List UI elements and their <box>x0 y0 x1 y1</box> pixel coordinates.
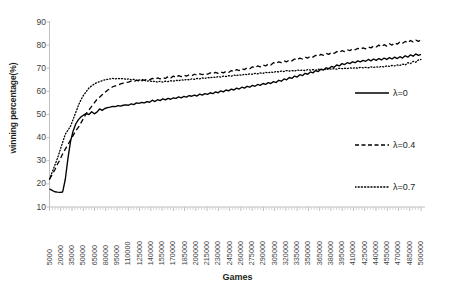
x-axis-title-text: Games <box>222 272 252 282</box>
x-axis-tick-label: 245000 <box>225 241 232 265</box>
x-axis-tick-label: 365000 <box>315 241 322 265</box>
x-axis-title: Games <box>0 272 475 282</box>
x-axis-tick-label: 485000 <box>405 241 412 265</box>
x-axis-tick-label: 275000 <box>248 241 255 265</box>
legend-label: λ=0.7 <box>393 182 415 192</box>
x-axis-tick-label: 5000 <box>45 249 52 265</box>
x-axis-tick-label: 305000 <box>270 241 277 265</box>
x-axis-tick-label: 410000 <box>349 241 356 265</box>
x-axis-tick-label: 320000 <box>282 241 289 265</box>
x-axis-tick-label: 20000 <box>56 245 63 265</box>
legend-swatch-dashed <box>355 141 389 149</box>
legend-label: λ=0.4 <box>393 140 415 150</box>
x-axis-tick-label: 155000 <box>158 241 165 265</box>
x-axis-tick-label: 230000 <box>214 241 221 265</box>
x-axis-tick-label: 125000 <box>135 241 142 265</box>
x-axis-tick-label: 425000 <box>360 241 367 265</box>
legend-swatch-dotted <box>355 183 389 191</box>
x-axis-tick-label: 65000 <box>90 245 97 265</box>
x-axis-tick-label: 50000 <box>79 245 86 265</box>
x-axis-tick-label: 290000 <box>259 241 266 265</box>
x-axis-tick-label: 170000 <box>169 241 176 265</box>
x-axis-tick-label: 395000 <box>338 241 345 265</box>
x-axis-tick-label: 215000 <box>203 241 210 265</box>
x-axis-tick-label: 185000 <box>180 241 187 265</box>
chart-container: winning percentage(%) 908070605040302010… <box>0 0 475 293</box>
x-axis-tick-label: 200000 <box>192 241 199 265</box>
x-axis-tick-label: 35000 <box>68 245 75 265</box>
x-axis-tick-label: 470000 <box>394 241 401 265</box>
x-axis-tick-label: 500000 <box>417 241 424 265</box>
x-axis-tick-label: 440000 <box>372 241 379 265</box>
x-axis-tick-label: 335000 <box>293 241 300 265</box>
x-axis-tick-label: 80000 <box>101 245 108 265</box>
legend-label: λ=0 <box>393 88 408 98</box>
legend-item: λ=0.4 <box>355 140 415 150</box>
x-axis-tick-label: 350000 <box>304 241 311 265</box>
legend-swatch-solid <box>355 89 389 97</box>
legend-item: λ=0 <box>355 88 408 98</box>
x-axis-tick-label: 260000 <box>237 241 244 265</box>
x-axis-tick-label: 95000 <box>113 245 120 265</box>
legend-item: λ=0.7 <box>355 182 415 192</box>
x-axis-tick-label: 455000 <box>383 241 390 265</box>
x-axis-tick-label: 380000 <box>327 241 334 265</box>
x-axis-tick-label: 140000 <box>147 241 154 265</box>
x-axis-tick-label: 110000 <box>124 241 131 265</box>
